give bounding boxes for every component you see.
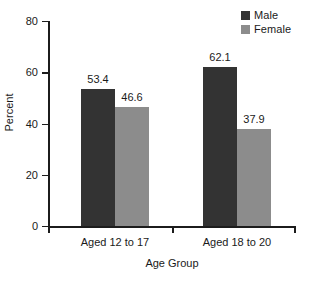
- y-axis-tick-label: 20: [0, 169, 38, 180]
- x-axis-tick-middle: [172, 226, 174, 233]
- bar: [81, 89, 115, 226]
- y-axis-title: Percent: [4, 73, 15, 153]
- legend-swatch-male-icon: [241, 11, 250, 20]
- bar-chart: Male Female 020406080 Percent Age Group …: [0, 0, 320, 281]
- bar-value-label: 62.1: [195, 52, 245, 63]
- bar: [115, 107, 149, 226]
- bar-value-label: 37.9: [229, 114, 279, 125]
- bar-value-label: 53.4: [73, 74, 123, 85]
- bar: [237, 129, 271, 226]
- x-axis-title: Age Group: [48, 258, 296, 269]
- x-axis-tick-start: [48, 226, 50, 233]
- plot-area: 53.446.662.137.9: [48, 21, 296, 226]
- y-axis-tick-label: 80: [0, 16, 38, 27]
- y-axis-tick-label: 0: [0, 221, 38, 232]
- x-axis-tick-end: [294, 226, 296, 233]
- bar: [203, 67, 237, 226]
- legend-label-male: Male: [254, 10, 278, 21]
- legend-item-male: Male: [241, 9, 319, 21]
- x-axis-group-label-2: Aged 18 to 20: [177, 237, 297, 248]
- x-axis-group-label-1: Aged 12 to 17: [55, 237, 175, 248]
- bar-value-label: 46.6: [107, 92, 157, 103]
